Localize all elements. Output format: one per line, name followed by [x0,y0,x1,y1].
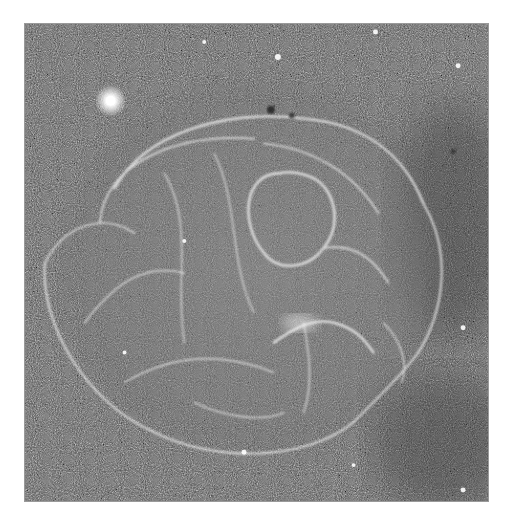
astronomical-image [24,23,489,502]
nebula-starfield [25,24,488,501]
